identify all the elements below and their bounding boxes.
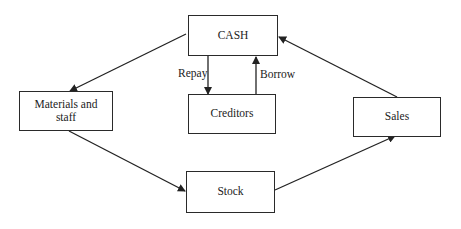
node-cash: CASH [188,15,278,56]
label-borrow: Borrow [260,68,295,80]
label-repay: Repay [178,67,207,79]
node-creditors: Creditors [188,94,276,134]
arrow-stock-to-sales [275,136,395,190]
node-stock: Stock [186,171,275,213]
node-materials-and-staff: Materials and staff [19,91,113,131]
arrow-sales-to-cash [279,37,397,97]
node-sales: Sales [353,97,441,137]
arrow-materials-to-stock [69,131,185,191]
arrow-cash-to-materials [70,34,186,91]
